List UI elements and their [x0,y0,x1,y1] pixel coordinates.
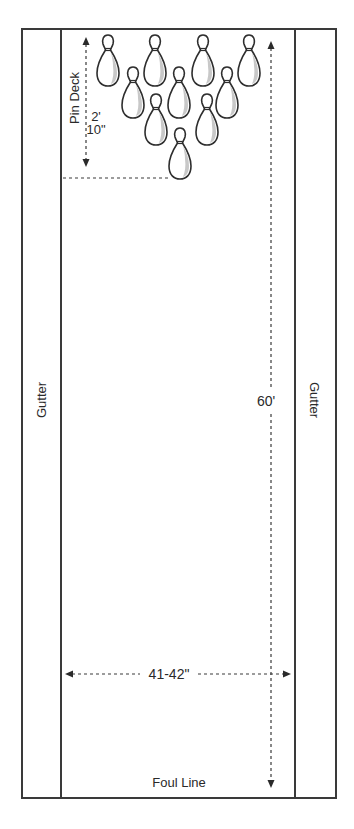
bowling-pin-icon [168,67,190,118]
bowling-lane-diagram: Gutter Gutter Pin Deck 2' 10" 60' [0,0,354,829]
pin-deck-dimension-arrow [83,37,90,167]
bowling-pin-icon [192,35,214,86]
bowling-pin-icon [216,67,238,118]
left-gutter-label: Gutter [34,381,49,418]
lane-width-label: 41-42" [149,666,190,682]
bowling-pin-icon [122,67,144,118]
bowling-pin-icon [145,94,167,145]
bowling-pin-icon [169,128,191,179]
lane-length-label: 60' [257,393,275,409]
foul-line-label: Foul Line [152,775,205,790]
right-gutter-label: Gutter [307,382,322,419]
bowling-pin-icon [238,35,260,86]
pin-deck-label: Pin Deck [67,71,82,124]
bowling-pin-icon [196,94,218,145]
lane-length-dimension-arrow [268,41,275,788]
pin-rack [97,35,260,179]
bowling-pin-icon [144,35,166,86]
bowling-pin-icon [97,35,119,86]
pin-deck-length-inches: 10" [86,122,105,137]
